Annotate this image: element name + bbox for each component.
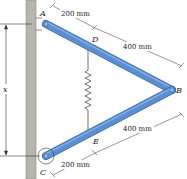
dim-label-ec: 200 mm	[61, 161, 90, 169]
x-label: x	[3, 85, 8, 94]
label-b: B	[175, 86, 182, 95]
dim-label-be: 400 mm	[123, 125, 152, 133]
label-d: D	[91, 35, 99, 44]
linkage-diagram: x 200 mm 400 mm 400 mm 200 mm A	[0, 0, 187, 179]
pin-b	[170, 88, 174, 92]
dim-label-db: 400 mm	[123, 43, 152, 51]
pin-a	[44, 22, 48, 26]
label-a: A	[39, 9, 46, 18]
label-e: E	[92, 137, 99, 146]
pin-c	[44, 154, 48, 158]
pin-support-a	[36, 18, 42, 30]
wall	[26, 0, 36, 179]
spring	[85, 46, 91, 134]
dim-label-ad: 200 mm	[61, 10, 90, 18]
label-c: C	[40, 168, 46, 177]
